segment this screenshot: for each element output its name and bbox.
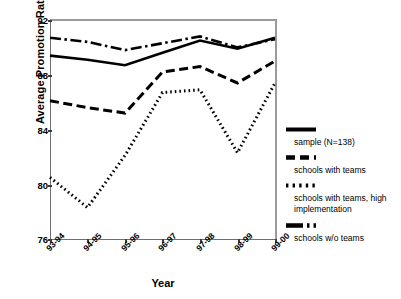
- plot-top-border: [50, 19, 277, 21]
- y-tick-label: 92: [2, 15, 48, 26]
- legend-swatch-dash-dot: [286, 220, 320, 231]
- legend-label: schools w/o teams: [294, 233, 364, 244]
- legend-label: schools with teams: [294, 165, 366, 176]
- y-tick-mark: [48, 130, 52, 132]
- plot-right-border: [275, 19, 277, 241]
- y-tick-mark: [48, 20, 52, 22]
- plot-area: [50, 20, 276, 240]
- legend-item-schools-wo-teams: schools w/o teams: [286, 220, 401, 248]
- legend-label: sample (N=138): [294, 137, 355, 148]
- y-tick-mark: [48, 185, 52, 187]
- y-tick-label: 80: [2, 180, 48, 191]
- legend-label: schools with teams, high implementation: [294, 193, 401, 215]
- chart-root: Average Promotion Rate 92 88 84 80 76 93…: [0, 0, 401, 299]
- legend-swatch-dotted: [286, 180, 320, 191]
- legend-swatch-dashed: [286, 152, 320, 163]
- y-tick-label: 84: [2, 125, 48, 136]
- legend-item-sample: sample (N=138): [286, 124, 401, 152]
- y-tick-label: 88: [2, 70, 48, 81]
- x-axis-title: Year: [50, 277, 276, 289]
- legend: sample (N=138) schools with teams school…: [286, 124, 401, 248]
- legend-swatch-solid: [286, 124, 320, 135]
- y-tick-label: 76: [2, 234, 48, 245]
- y-tick-mark: [48, 75, 52, 77]
- legend-item-schools-with-teams: schools with teams: [286, 152, 401, 180]
- legend-item-high-implementation: schools with teams, high implementation: [286, 180, 401, 220]
